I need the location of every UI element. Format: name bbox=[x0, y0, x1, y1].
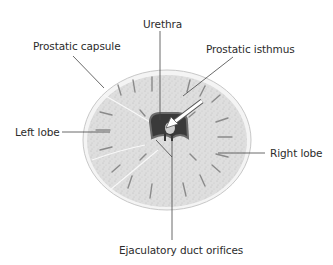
label-prostatic-isthmus: Prostatic isthmus bbox=[206, 43, 295, 55]
label-prostatic-capsule: Prostatic capsule bbox=[33, 40, 121, 52]
label-right-lobe: Right lobe bbox=[270, 147, 322, 159]
prostate-tissue bbox=[87, 75, 247, 207]
label-urethra: Urethra bbox=[143, 18, 182, 30]
prostate-diagram: Urethra Prostatic capsule Prostatic isth… bbox=[0, 0, 333, 265]
label-left-lobe: Left lobe bbox=[15, 126, 60, 138]
label-ejaculatory-duct-orifices: Ejaculatory duct orifices bbox=[119, 244, 243, 256]
